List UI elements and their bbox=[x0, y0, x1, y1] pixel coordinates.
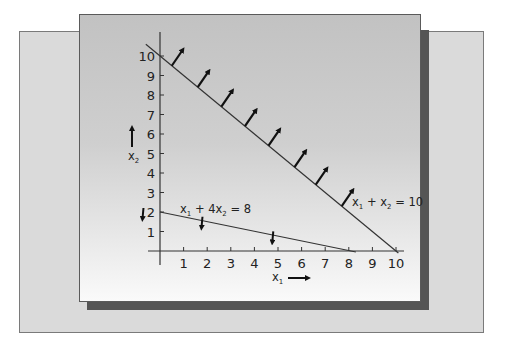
x-tick-label: 6 bbox=[297, 256, 305, 271]
arrow-down-icon bbox=[201, 217, 202, 228]
feasible-direction-arrows-1 bbox=[172, 50, 353, 206]
x2-axis-label: x2 bbox=[128, 128, 139, 165]
x1-axis-label: x1 bbox=[272, 270, 308, 286]
y-tick-label: 5 bbox=[147, 147, 155, 162]
x-tick-label: 4 bbox=[250, 256, 258, 271]
axes bbox=[148, 32, 404, 265]
arrow-up-right-icon bbox=[295, 151, 306, 167]
arrow-down-icon bbox=[142, 208, 143, 219]
y-ticks bbox=[160, 56, 164, 232]
constraint-line-x1-plus-x2-eq-10 bbox=[146, 44, 399, 253]
svg-text:x2: x2 bbox=[128, 149, 139, 165]
y-tick-label: 8 bbox=[147, 88, 155, 103]
arrow-up-right-icon bbox=[172, 50, 183, 66]
y-tick-label: 1 bbox=[147, 225, 155, 240]
x-tick-label: 9 bbox=[368, 256, 376, 271]
y-tick-label: 4 bbox=[147, 166, 155, 181]
y-tick-labels: 12345678910 bbox=[138, 49, 155, 240]
equation-label-2: x1 + 4x2 = 8 bbox=[180, 202, 251, 218]
x-tick-label: 3 bbox=[227, 256, 235, 271]
y-tick-label: 10 bbox=[138, 49, 155, 64]
y-tick-label: 9 bbox=[147, 69, 155, 84]
svg-text:x1: x1 bbox=[272, 270, 283, 286]
x-tick-label: 1 bbox=[179, 256, 187, 271]
y-tick-label: 7 bbox=[147, 108, 155, 123]
constraint-plot: 12345678910 12345678910 x1 + x2 = 10 x1 … bbox=[0, 0, 506, 345]
arrow-up-right-icon bbox=[221, 91, 232, 107]
y-tick-label: 6 bbox=[147, 127, 155, 142]
x-tick-label: 10 bbox=[388, 256, 405, 271]
equation-label-1: x1 + x2 = 10 bbox=[352, 195, 423, 211]
arrow-up-right-icon bbox=[198, 71, 209, 87]
arrow-up-right-icon bbox=[269, 130, 280, 146]
x-tick-label: 2 bbox=[203, 256, 211, 271]
x-tick-label: 8 bbox=[345, 256, 353, 271]
arrow-down-icon bbox=[272, 231, 273, 242]
arrow-up-right-icon bbox=[316, 169, 327, 185]
arrow-up-right-icon bbox=[245, 110, 256, 126]
x-tick-label: 5 bbox=[274, 256, 282, 271]
y-tick-label: 3 bbox=[147, 186, 155, 201]
x-tick-labels: 12345678910 bbox=[179, 256, 404, 271]
x-tick-label: 7 bbox=[321, 256, 329, 271]
y-tick-label: 2 bbox=[147, 205, 155, 220]
